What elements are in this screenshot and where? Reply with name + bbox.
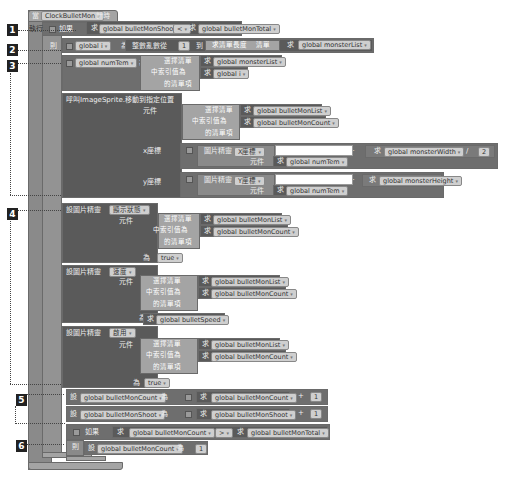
var-dropdown[interactable]: global numTem▾ — [75, 58, 137, 68]
property-dropdown[interactable]: X座標▾ — [234, 147, 265, 157]
var-dropdown[interactable]: global monsterWidth▾ — [384, 147, 464, 157]
number-field[interactable]: 1 — [310, 409, 322, 419]
then-label: 則 — [50, 42, 57, 51]
call-moveto-title: 呼叫ImageSprite.移動到指定位置 — [66, 96, 174, 105]
get-block[interactable]: 求 global i▾ — [200, 67, 248, 79]
var-dropdown[interactable]: global bulletMonShoot▾ — [99, 24, 184, 34]
operator-dropdown[interactable]: >▾ — [215, 428, 233, 438]
empty-slot — [275, 145, 353, 156]
get-block[interactable]: 求 global bulletMonCount▾ — [196, 391, 290, 403]
var-dropdown[interactable]: global bulletMonTotal▾ — [198, 24, 280, 34]
var-dropdown[interactable]: global bulletMonCount▾ — [211, 393, 297, 403]
bracket-line — [10, 384, 65, 385]
var-dropdown[interactable]: global bulletMonList▾ — [253, 106, 331, 116]
get-label: 求 — [202, 289, 209, 298]
event-block-footer — [28, 462, 123, 470]
select-list-item-block[interactable]: 選擇清單 中索引值為 的清單項 — [140, 338, 198, 374]
component-label: 元件 — [119, 278, 133, 287]
length-label: 求清單長度 — [212, 41, 247, 50]
get-label: 求 — [117, 428, 124, 437]
set-visible-block[interactable]: 設圖片精靈 顯示狀態▾ 元件 為 — [62, 203, 158, 263]
var-dropdown[interactable]: global bulletMonCount▾ — [97, 444, 183, 454]
select-list-item-block[interactable]: 選擇清單 中索引值為 的清單項 — [140, 55, 200, 91]
get-block[interactable]: 求 global bulletSpeed▾ — [143, 313, 225, 325]
var-dropdown[interactable]: global monsterList▾ — [298, 40, 371, 50]
get-label: 求 — [91, 24, 98, 33]
mutator-icon — [186, 147, 193, 154]
list-length-block[interactable]: 求清單長度 清單 — [205, 40, 280, 51]
var-dropdown[interactable]: global bulletMonCount▾ — [80, 393, 166, 403]
property-dropdown[interactable]: 啟用▾ — [109, 328, 136, 338]
select-list-item-block[interactable]: 選擇清單 中索引值為 的清單項 — [140, 275, 198, 311]
var-dropdown[interactable]: global bulletMonCount▾ — [129, 428, 215, 438]
get-block[interactable]: 求 global monsterHeight▾ — [362, 174, 442, 187]
component-dropdown[interactable]: ClockBulletMon▾ — [41, 11, 104, 21]
sprite-label: 圖片精靈 — [204, 147, 232, 156]
get-block[interactable]: 求 global bulletMonCount▾ — [240, 116, 326, 128]
var-dropdown[interactable]: global bulletMonList▾ — [211, 340, 289, 350]
get-label: 求 — [189, 24, 196, 33]
get-block[interactable]: 求 global numTem▾ — [273, 185, 343, 196]
set-count-reset-block[interactable]: 設 global bulletMonCount▾ 為 1 — [84, 441, 208, 455]
get-label: 求 — [200, 393, 207, 402]
var-dropdown[interactable]: global monsterHeight▾ — [379, 176, 462, 186]
step-label-4: 4 — [7, 208, 18, 220]
mutator-gear-icon[interactable] — [73, 429, 80, 436]
var-dropdown[interactable]: global bulletMonList▾ — [213, 215, 291, 225]
x-divide-block[interactable]: 求 global monsterWidth▾ / 2 — [365, 145, 495, 158]
var-dropdown[interactable]: global bulletMonList▾ — [211, 277, 289, 287]
item-label: 的清單項 — [205, 129, 233, 138]
get-block[interactable]: 求 global bulletMonCount▾ — [198, 350, 286, 362]
get-block[interactable]: 求 global bulletMonCount▾ — [198, 287, 286, 299]
get-block[interactable]: 求 global bulletMonShoot▾ — [196, 408, 290, 420]
boolean-dropdown[interactable]: true▾ — [144, 378, 170, 388]
get-block[interactable]: 求 global monsterList▾ — [200, 55, 282, 67]
x-sprite-getter[interactable]: 圖片精靈 X座標▾ 元件 — [197, 145, 275, 167]
property-dropdown[interactable]: 速度▾ — [109, 267, 136, 277]
number-field[interactable]: 2 — [478, 147, 490, 157]
index-label: 中索引值為 — [146, 288, 181, 297]
var-dropdown[interactable]: global bulletMonShoot▾ — [211, 410, 296, 420]
var-dropdown[interactable]: global i▾ — [75, 41, 111, 51]
set-label: 設 — [88, 444, 95, 453]
mutator-icon — [66, 60, 73, 67]
var-dropdown[interactable]: global bulletSpeed▾ — [156, 315, 229, 325]
var-dropdown[interactable]: global bulletMonShoot▾ — [80, 410, 165, 420]
var-dropdown[interactable]: global bulletMonCount▾ — [213, 227, 299, 237]
get-block[interactable]: 求 global bulletMonList▾ — [198, 275, 280, 287]
sprite-label: 圖片精靈 — [204, 176, 232, 185]
var-dropdown[interactable]: global bulletMonCount▾ — [211, 289, 297, 299]
get-block[interactable]: 求 global bulletMonList▾ — [198, 338, 280, 350]
call-moveto-block[interactable]: 呼叫ImageSprite.移動到指定位置 元件 x座標 y座標 — [62, 93, 182, 198]
get-block[interactable]: 求 global bulletMonList▾ — [200, 213, 282, 225]
select-list-label: 選擇清單 — [164, 215, 192, 224]
get-label: 求 — [244, 118, 251, 127]
property-dropdown[interactable]: Y座標▾ — [234, 176, 265, 186]
compare-block[interactable]: 求 global bulletMonCount▾ >▾ 求 global bul… — [112, 426, 328, 438]
var-dropdown[interactable]: global bulletMonCount▾ — [253, 118, 339, 128]
get-block[interactable]: 求 global bulletMonCount▾ — [200, 225, 288, 237]
var-dropdown[interactable]: global i▾ — [213, 69, 249, 79]
empty-slot — [275, 174, 353, 185]
number-field[interactable]: 1 — [178, 41, 190, 51]
number-field[interactable]: 1 — [195, 444, 207, 454]
number-field[interactable]: 1 — [310, 392, 322, 402]
boolean-dropdown[interactable]: true▾ — [157, 253, 183, 263]
property-dropdown[interactable]: 顯示狀態▾ — [109, 205, 150, 215]
get-block[interactable]: 求 global bulletMonList▾ — [240, 104, 322, 116]
component-name: ClockBulletMon — [45, 12, 95, 20]
var-dropdown[interactable]: global numTem▾ — [286, 186, 348, 196]
as-label: 為 — [161, 393, 168, 402]
var-dropdown[interactable]: global bulletMonCount▾ — [211, 352, 297, 362]
get-label: 求 — [287, 41, 294, 50]
get-block[interactable]: 求 global numTem▾ — [273, 156, 343, 167]
get-label: 求 — [369, 176, 376, 185]
select-list-item-block[interactable]: 選擇清單 中索引值為 的清單項 — [182, 104, 240, 140]
leader-line — [18, 63, 63, 64]
step-label-2: 2 — [7, 44, 18, 56]
y-sprite-getter[interactable]: 圖片精靈 Y座標▾ 元件 — [197, 174, 275, 196]
select-list-item-block[interactable]: 選擇清單 中索引值為 的清單項 — [158, 213, 200, 249]
var-dropdown[interactable]: global monsterList▾ — [213, 57, 286, 67]
var-dropdown[interactable]: global bulletMonTotal▾ — [247, 428, 329, 438]
var-dropdown[interactable]: global numTem▾ — [286, 157, 348, 167]
